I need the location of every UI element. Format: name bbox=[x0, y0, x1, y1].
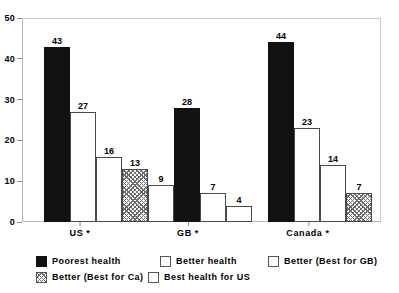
legend-item[interactable]: Better health bbox=[160, 256, 237, 267]
x-axis-tick-label: GB * bbox=[177, 228, 199, 238]
y-axis-tick-label: 20 bbox=[5, 134, 15, 146]
legend-swatch-icon bbox=[36, 272, 47, 283]
bar-value-label: 9 bbox=[158, 173, 163, 185]
y-axis-tick: 0 bbox=[0, 216, 22, 228]
legend-swatch-icon bbox=[268, 256, 279, 267]
y-axis-tick: 30 bbox=[0, 94, 22, 106]
legend-item-label: Poorest health bbox=[52, 256, 121, 267]
y-axis-tick-label: 50 bbox=[5, 12, 15, 24]
legend-item[interactable]: Poorest health bbox=[36, 256, 121, 267]
y-axis-tick-label: 30 bbox=[5, 94, 15, 106]
bar: 13 bbox=[122, 169, 148, 222]
chart-legend: Poorest healthBetter healthBetter (Best … bbox=[36, 256, 392, 288]
x-axis-tick-mark bbox=[308, 222, 309, 226]
legend-item-label: Better health bbox=[176, 256, 237, 267]
y-axis: 01020304050 bbox=[0, 0, 22, 293]
x-axis: US *GB *Canada * bbox=[22, 222, 381, 244]
y-axis-tick: 20 bbox=[0, 134, 22, 146]
x-axis-tick: US * bbox=[70, 222, 91, 232]
bar: 27 bbox=[70, 112, 96, 222]
bar: 16 bbox=[96, 157, 122, 222]
legend-item-label: Better (Best for Ca) bbox=[52, 272, 144, 283]
bar-value-label: 13 bbox=[130, 157, 140, 169]
legend-item[interactable]: Best health for US bbox=[148, 272, 250, 283]
bar: 23 bbox=[294, 128, 320, 222]
bar-chart: 01020304050 43271613928744423147 US *GB … bbox=[0, 0, 399, 293]
x-axis-tick-mark bbox=[188, 222, 189, 226]
legend-item-label: Better (Best for GB) bbox=[284, 256, 378, 267]
y-axis-tick: 40 bbox=[0, 53, 22, 65]
y-axis-tick-label: 40 bbox=[5, 53, 15, 65]
y-axis-tick-label: 10 bbox=[5, 175, 15, 187]
y-axis-tick-label: 0 bbox=[10, 216, 15, 228]
legend-item[interactable]: Better (Best for GB) bbox=[268, 256, 378, 267]
bars-layer: 43271613928744423147 bbox=[22, 18, 381, 222]
bar: 28 bbox=[174, 108, 200, 222]
x-axis-tick-label: Canada * bbox=[286, 228, 329, 238]
bar-value-label: 44 bbox=[276, 30, 286, 42]
y-axis-tick: 10 bbox=[0, 175, 22, 187]
bar-value-label: 43 bbox=[52, 35, 62, 47]
bar-value-label: 7 bbox=[356, 181, 361, 193]
legend-swatch-icon bbox=[148, 272, 159, 283]
legend-swatch-icon bbox=[36, 256, 47, 267]
bar: 7 bbox=[346, 193, 372, 222]
x-axis-tick-label: US * bbox=[70, 228, 91, 238]
bar-value-label: 7 bbox=[210, 181, 215, 193]
bar-value-label: 23 bbox=[302, 116, 312, 128]
y-axis-tick: 50 bbox=[0, 12, 22, 24]
bar-value-label: 4 bbox=[236, 194, 241, 206]
bar: 43 bbox=[44, 47, 70, 222]
bar: 14 bbox=[320, 165, 346, 222]
legend-item-label: Best health for US bbox=[164, 272, 250, 283]
legend-row: Better (Best for Ca)Best health for US bbox=[36, 272, 392, 288]
legend-swatch-icon bbox=[160, 256, 171, 267]
bar: 7 bbox=[200, 193, 226, 222]
bar-value-label: 27 bbox=[78, 100, 88, 112]
legend-item[interactable]: Better (Best for Ca) bbox=[36, 272, 144, 283]
bar-value-label: 28 bbox=[182, 96, 192, 108]
bar: 9 bbox=[148, 185, 174, 222]
bar: 4 bbox=[226, 206, 252, 222]
bar-value-label: 14 bbox=[328, 153, 338, 165]
bar-value-label: 16 bbox=[104, 145, 114, 157]
x-axis-tick: Canada * bbox=[286, 222, 329, 232]
legend-row: Poorest healthBetter healthBetter (Best … bbox=[36, 256, 392, 272]
bar: 44 bbox=[268, 42, 294, 222]
x-axis-tick-mark bbox=[80, 222, 81, 226]
x-axis-tick: GB * bbox=[177, 222, 199, 232]
